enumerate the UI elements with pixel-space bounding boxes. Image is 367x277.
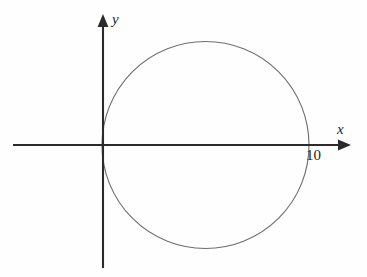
coordinate-plane-graphic — [0, 0, 367, 277]
x-tick-label-10: 10 — [306, 148, 321, 163]
y-axis-arrow-icon — [98, 14, 109, 27]
x-axis-label: x — [337, 122, 344, 137]
figure-canvas: x y 10 — [0, 0, 367, 277]
y-axis-label: y — [112, 12, 119, 27]
x-axis-arrow-icon — [338, 140, 351, 151]
